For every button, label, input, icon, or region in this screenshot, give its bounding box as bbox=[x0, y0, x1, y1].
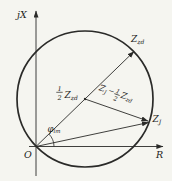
sensitivity-angle-arc bbox=[49, 134, 54, 147]
difference-vector bbox=[85, 99, 148, 121]
half-zzd-numerator: 1 bbox=[57, 85, 61, 93]
circle-center-dot bbox=[84, 98, 86, 100]
origin-label: O bbox=[24, 149, 32, 160]
difference-numerator: 1 bbox=[115, 87, 121, 95]
half-zzd-denominator: 2 bbox=[56, 94, 61, 102]
difference-label: ZJ − 1 2 Zzd bbox=[96, 81, 136, 107]
zj-label: ZJ bbox=[152, 114, 162, 126]
jx-axis-label: jX bbox=[15, 9, 28, 20]
svg-text:Zzd: Zzd bbox=[64, 90, 78, 101]
diagram-canvas: jX R O Zzd 1 2 Zzd ZJ − 1 2 Zzd ZJ φlm bbox=[0, 0, 172, 181]
zzd-label: Zzd bbox=[130, 34, 144, 45]
half-zzd-label: 1 2 Zzd bbox=[56, 85, 78, 102]
svg-text:Zzd: Zzd bbox=[118, 90, 135, 105]
impedance-circle-figure: jX R O Zzd 1 2 Zzd ZJ − 1 2 Zzd ZJ φlm bbox=[0, 0, 172, 181]
r-axis-label: R bbox=[155, 149, 163, 160]
